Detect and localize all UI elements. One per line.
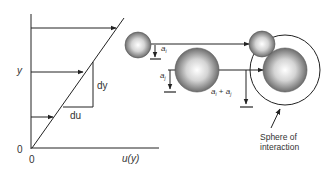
particle-j-sphere [175, 48, 219, 92]
ai-label: ai [161, 44, 167, 54]
particle-i-sphere [125, 32, 151, 58]
particle-i-sphere-collision [249, 31, 275, 57]
radius-aj-marker: aj [160, 70, 176, 92]
dy-label: dy [97, 80, 108, 91]
origin-y-label: 0 [17, 144, 23, 155]
ai-plus-aj-label: ai + aj [211, 87, 232, 97]
du-label: du [70, 110, 81, 121]
y-axis-label: y [16, 65, 23, 76]
origin-x-label: 0 [29, 154, 35, 165]
radius-ai-marker: ai [150, 44, 167, 59]
aj-label: aj [160, 71, 166, 81]
sphere-label-pointer [271, 109, 280, 128]
sphere-of-interaction-label-line1: Sphere of [260, 132, 297, 142]
collision-panel: ai aj ai + aj Sphere of interaction [125, 31, 320, 152]
diagram-canvas: y u(y) 0 0 dy du ai aj ai + aj [0, 0, 336, 171]
x-axis-label: u(y) [122, 153, 139, 164]
sphere-of-interaction-label-line2: interaction [260, 142, 299, 152]
velocity-profile-line [32, 18, 124, 148]
